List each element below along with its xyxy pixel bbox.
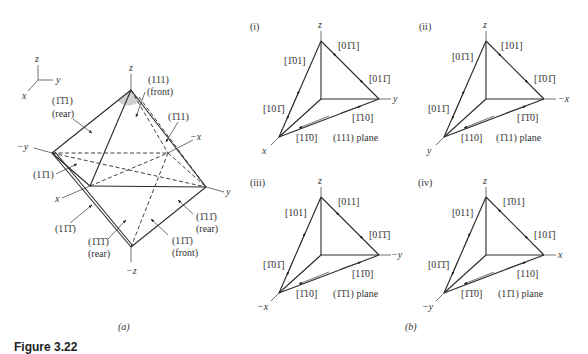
direction-label: [01̄1] bbox=[452, 51, 473, 62]
plane-label: (1̄1̄1) bbox=[52, 95, 73, 107]
direction-label: [01̄1̄] bbox=[369, 229, 390, 240]
axis-right: −x bbox=[558, 93, 570, 104]
direction-label: [1̄10] bbox=[296, 288, 317, 299]
plane-name: (111) plane bbox=[333, 132, 379, 144]
plane-side: (rear) bbox=[52, 108, 74, 120]
axis-x-neg: −x bbox=[190, 131, 202, 142]
plane-name: (11̄1) plane bbox=[498, 288, 544, 300]
plane-side: (front) bbox=[147, 86, 173, 98]
panel-a-label: (a) bbox=[118, 321, 130, 333]
direction-label: [101̄] bbox=[534, 229, 556, 240]
axis-bottom: −y bbox=[422, 301, 434, 312]
direction-label: [1̄01̄] bbox=[534, 73, 556, 84]
panel-b-ii: (ii) z −x y [01̄1] [011̄] [101] [1̄01̄] … bbox=[419, 19, 570, 156]
panel-b-i: (i) z y x [1̄01] [101̄] [01̄1] [011̄] [1… bbox=[250, 19, 398, 156]
axis-top: z bbox=[317, 19, 322, 30]
plane-name: (1̄11) plane bbox=[496, 132, 542, 144]
direction-label: [101] bbox=[285, 207, 307, 218]
axis-right: y bbox=[392, 93, 398, 104]
panel-id: (iii) bbox=[250, 177, 265, 189]
plane-label: (1̄1̄1̄) bbox=[88, 236, 109, 248]
direction-label: [101̄] bbox=[263, 103, 285, 114]
direction-label: [011̄] bbox=[428, 103, 449, 114]
direction-label: [011] bbox=[338, 196, 359, 207]
direction-label: [110] bbox=[517, 268, 538, 279]
triad-y-label: y bbox=[55, 74, 61, 85]
plane-label: (11̄1) bbox=[33, 169, 54, 181]
axis-bottom: −x bbox=[257, 301, 269, 312]
panel-b-label: (b) bbox=[405, 321, 417, 333]
direction-label: [110] bbox=[461, 132, 482, 143]
plane-label: (11̄1̄) bbox=[55, 223, 76, 235]
direction-label: [011] bbox=[452, 207, 473, 218]
panel-a-octahedron: z y x bbox=[17, 53, 231, 333]
direction-label: [1̄1̄0] bbox=[517, 112, 538, 123]
axes-triad: z y x bbox=[21, 53, 61, 101]
direction-label: [01̄1̄] bbox=[428, 259, 449, 270]
axis-bottom: x bbox=[261, 145, 267, 156]
plane-label: (1̄11) bbox=[168, 111, 189, 123]
direction-label: [1̄01] bbox=[284, 55, 306, 66]
direction-label: [11̄0] bbox=[352, 268, 373, 279]
figure-caption: Figure 3.22 bbox=[14, 340, 77, 354]
axis-y-neg: −y bbox=[17, 141, 29, 152]
axis-bottom: y bbox=[426, 145, 432, 156]
direction-label: [101] bbox=[501, 40, 523, 51]
plane-side: (rear) bbox=[88, 248, 110, 260]
axis-x-pos: x bbox=[54, 193, 60, 204]
plane-label: (11̄1̄) bbox=[172, 235, 193, 247]
panel-id: (ii) bbox=[419, 21, 431, 33]
axis-y-pos: y bbox=[225, 186, 231, 197]
axis-top: z bbox=[482, 175, 487, 186]
plane-name: (1̄1̄1) plane bbox=[333, 288, 379, 300]
triad-z-label: z bbox=[34, 53, 39, 64]
direction-label: [1̄01̄] bbox=[263, 259, 285, 270]
direction-label: [1̄10] bbox=[352, 112, 373, 123]
axis-top: z bbox=[482, 19, 487, 30]
panel-id: (iv) bbox=[418, 177, 432, 189]
axis-z-bottom: −z bbox=[126, 265, 137, 276]
plane-side: (rear) bbox=[196, 223, 218, 235]
axis-top: z bbox=[317, 175, 322, 186]
direction-label: [1̄1̄0] bbox=[461, 288, 482, 299]
plane-label: (1̄11̄) bbox=[196, 211, 217, 223]
direction-label: [011̄] bbox=[369, 73, 390, 84]
panel-id: (i) bbox=[250, 21, 259, 33]
plane-side: (front) bbox=[172, 247, 198, 259]
direction-label: [1̄01] bbox=[503, 196, 525, 207]
plane-label: (111) bbox=[148, 74, 169, 86]
axis-right: −y bbox=[391, 249, 403, 260]
panel-b-iv: (iv) z x −y [011] [01̄1̄] [1̄01] [101̄] … bbox=[418, 175, 563, 312]
direction-label: [11̄0] bbox=[296, 132, 317, 143]
triad-x-label: x bbox=[21, 90, 27, 101]
direction-label: [01̄1] bbox=[338, 40, 359, 51]
panel-b-iii: (iii) z −y −x [101] [1̄01̄] [011] [01̄1̄… bbox=[250, 175, 403, 312]
axis-right: x bbox=[557, 249, 563, 260]
axis-z-top: z bbox=[128, 62, 133, 73]
